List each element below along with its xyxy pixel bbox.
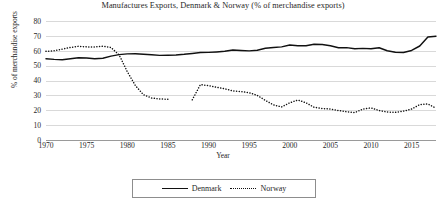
series-layer	[46, 21, 436, 140]
solid-line-icon	[162, 188, 188, 189]
dotted-line-icon	[230, 188, 256, 189]
series-line-denmark	[46, 36, 436, 60]
x-tick-label: 1985	[148, 141, 188, 150]
x-tick-label: 1975	[67, 141, 107, 150]
x-tick-label: 2010	[351, 141, 391, 150]
x-tick-label: 2015	[392, 141, 432, 150]
x-tick-label: 2005	[310, 141, 350, 150]
x-tick-label: 1995	[229, 141, 269, 150]
x-tick-label: 1990	[189, 141, 229, 150]
legend-item-norway[interactable]: Norway	[230, 184, 286, 193]
x-tick-label: 1970	[26, 141, 66, 150]
legend-label-norway: Norway	[260, 184, 286, 193]
series-line-norway	[192, 85, 436, 113]
x-tick-label: 2000	[270, 141, 310, 150]
legend-label-denmark: Denmark	[192, 184, 222, 193]
chart-container: Manufactures Exports, Denmark & Norway (…	[0, 0, 446, 204]
x-tick-label: 1980	[107, 141, 147, 150]
legend-item-denmark[interactable]: Denmark	[162, 184, 222, 193]
chart-legend: Denmark Norway	[132, 179, 316, 198]
